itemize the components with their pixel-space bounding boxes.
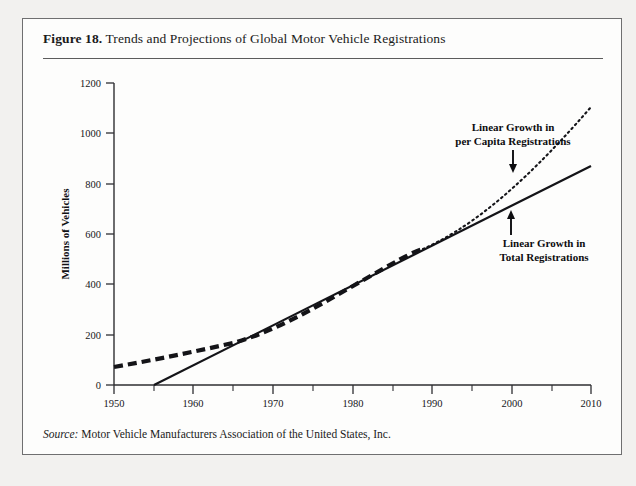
series-total-registrations [154, 166, 591, 385]
y-tick-label: 400 [85, 279, 101, 290]
y-tick-label: 1000 [80, 128, 101, 139]
x-tick-label: 1950 [104, 398, 125, 409]
x-axis-tick-labels: 1950 1960 1970 1980 1990 2000 2010 [104, 398, 602, 409]
per-capita-annotation-line1: Linear Growth in [472, 121, 555, 133]
source-label: Source: [43, 428, 78, 440]
total-registrations-annotation-line1: Linear Growth in [503, 237, 586, 249]
arrow-up-icon [507, 210, 515, 235]
figure-panel: Figure 18. Trends and Projections of Glo… [22, 18, 622, 455]
total-registrations-annotation: Linear Growth in Total Registrations [499, 210, 589, 263]
y-tick-label: 200 [85, 330, 101, 341]
y-tick-label: 0 [96, 380, 101, 391]
x-tick-label: 1980 [343, 398, 364, 409]
y-tick-label: 1200 [80, 78, 101, 89]
y-axis-tick-labels: 1200 1000 800 600 400 200 0 [80, 78, 101, 391]
x-axis-ticks [114, 385, 591, 394]
source-text: Motor Vehicle Manufacturers Association … [78, 428, 390, 440]
x-tick-label: 2010 [581, 398, 602, 409]
y-axis-title: Millions of Vehicles [59, 188, 71, 280]
y-tick-label: 600 [85, 229, 101, 240]
arrow-down-icon [509, 150, 517, 173]
x-tick-label: 1960 [183, 398, 204, 409]
figure-source: Source: Motor Vehicle Manufacturers Asso… [43, 428, 391, 440]
series-historical-registrations [114, 249, 423, 367]
y-tick-label: 800 [85, 179, 101, 190]
per-capita-annotation-line2: per Capita Registrations [455, 135, 571, 147]
chart-plot-area: 1200 1000 800 600 400 200 0 Millions of … [23, 19, 623, 456]
x-tick-label: 2000 [502, 398, 523, 409]
total-registrations-annotation-line2: Total Registrations [499, 251, 589, 263]
x-tick-label: 1970 [263, 398, 284, 409]
x-tick-label: 1990 [422, 398, 443, 409]
y-axis-ticks [106, 83, 114, 385]
